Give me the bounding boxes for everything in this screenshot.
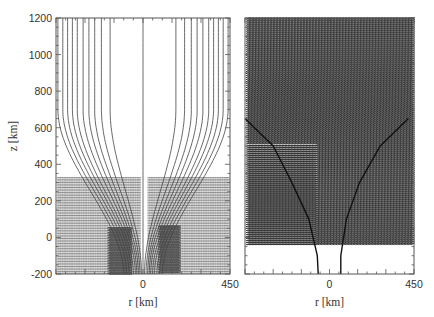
- x-tick-label: 450: [221, 278, 239, 290]
- y-tick-label: 0: [46, 231, 52, 243]
- y-tick-label: 1200: [29, 12, 53, 24]
- y-tick-label: 400: [34, 158, 52, 170]
- x-axis-title: r [km]: [128, 296, 157, 308]
- vector-field: [246, 18, 415, 245]
- y-tick-label: 1000: [29, 49, 53, 61]
- y-tick-label: 600: [34, 122, 52, 134]
- y-tick-label: -200: [31, 268, 52, 280]
- right-panel: 0450r [km]: [245, 18, 423, 308]
- y-tick-label: 200: [34, 195, 52, 207]
- x-tick-label: 0: [327, 278, 333, 290]
- y-tick-label: 800: [34, 85, 52, 97]
- field-lines: [58, 18, 228, 274]
- left-panel: 0450r [km]-200020040060080010001200z [km…: [7, 12, 239, 308]
- figure: 0450r [km]-200020040060080010001200z [km…: [0, 0, 434, 317]
- x-tick-label: 0: [140, 278, 146, 290]
- x-tick-label: 450: [405, 278, 423, 290]
- x-axis-title: r [km]: [315, 296, 344, 308]
- y-axis-title: z [km]: [7, 121, 19, 151]
